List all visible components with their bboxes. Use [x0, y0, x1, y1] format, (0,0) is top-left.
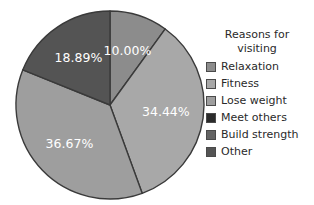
legend-swatch-icon [206, 113, 216, 123]
legend-item[interactable]: Relaxation [206, 59, 314, 74]
legend-swatch-icon [206, 96, 216, 106]
legend-item-label: Relaxation [221, 61, 279, 72]
pie-slice-label: 18.89% [55, 50, 103, 65]
legend-swatch-icon [206, 62, 216, 72]
legend-item-label: Build strength [221, 129, 298, 140]
pie-slice-label: 34.44% [142, 104, 190, 119]
pie-slice-label: 10.00% [104, 43, 152, 58]
legend-item-label: Other [221, 146, 252, 157]
pie-plot-area: 10.00%34.44%36.67%18.89% [0, 0, 215, 205]
legend-title-line-2: visiting [208, 42, 306, 56]
pie-chart: 10.00%34.44%36.67%18.89% Reasons for vis… [0, 0, 314, 205]
legend-swatch-icon [206, 79, 216, 89]
legend-item-list: RelaxationFitnessLose weightMeet othersB… [206, 59, 314, 159]
legend-item-label: Fitness [221, 78, 259, 89]
legend-item[interactable]: Build strength [206, 127, 314, 142]
legend-item[interactable]: Meet others [206, 110, 314, 125]
legend-title: Reasons for visiting [208, 28, 306, 55]
legend: Reasons for visiting RelaxationFitnessLo… [206, 28, 314, 161]
legend-item[interactable]: Fitness [206, 76, 314, 91]
legend-item[interactable]: Other [206, 144, 314, 159]
legend-item[interactable]: Lose weight [206, 93, 314, 108]
legend-title-line-1: Reasons for [208, 28, 306, 42]
legend-swatch-icon [206, 147, 216, 157]
pie-slice-label: 36.67% [46, 136, 94, 151]
pie-svg: 10.00%34.44%36.67%18.89% [0, 0, 215, 205]
legend-swatch-icon [206, 130, 216, 140]
legend-item-label: Lose weight [221, 95, 287, 106]
legend-item-label: Meet others [221, 112, 287, 123]
